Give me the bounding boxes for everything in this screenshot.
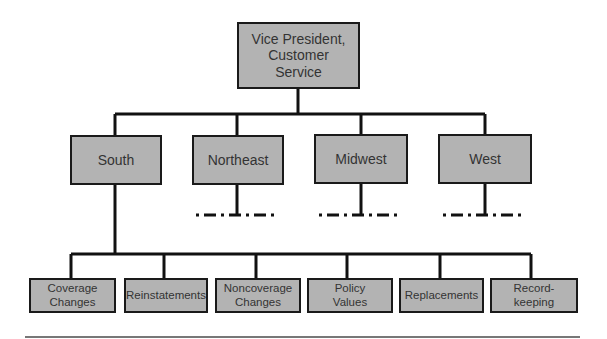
node-reinstatements: Reinstatements (124, 278, 208, 313)
dept-line-1: Record- (514, 282, 555, 295)
region-label: West (469, 151, 501, 167)
dept-line-1: Noncoverage (224, 282, 292, 295)
node-midwest: Midwest (314, 134, 408, 184)
node-policy-values: Policy Values (307, 278, 393, 313)
node-noncoverage-changes: Noncoverage Changes (215, 278, 301, 313)
vp-line-1: Vice President, (252, 31, 346, 47)
region-label: Northeast (208, 152, 269, 168)
region-label: Midwest (335, 151, 386, 167)
node-west: West (438, 134, 532, 184)
vp-line-3: Service (252, 64, 346, 80)
node-record-keeping: Record- keeping (490, 278, 578, 313)
dept-line-2: Changes (224, 296, 292, 309)
dept-line-2: Changes (48, 296, 98, 309)
region-label: South (98, 152, 135, 168)
dept-line-2: Values (333, 296, 367, 309)
node-northeast: Northeast (192, 135, 284, 185)
dept-line-1: Coverage (48, 282, 98, 295)
dept-line-2: keeping (514, 296, 555, 309)
node-vice-president: Vice President, Customer Service (237, 22, 360, 89)
dept-line-1: Policy (333, 282, 367, 295)
vp-line-2: Customer (252, 47, 346, 63)
dept-line-1: Replacements (405, 289, 479, 302)
node-south: South (70, 135, 162, 185)
node-replacements: Replacements (399, 278, 484, 313)
dept-line-1: Reinstatements (126, 289, 206, 302)
node-coverage-changes: Coverage Changes (29, 278, 116, 313)
bottom-rule (25, 336, 580, 338)
